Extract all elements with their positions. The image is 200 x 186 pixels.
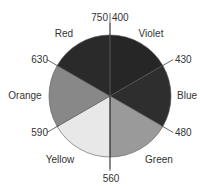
slice-label-green: Green <box>145 154 173 165</box>
slice-label-red: Red <box>55 28 73 39</box>
wavelength-label: 480 <box>175 127 192 138</box>
slice-label-violet: Violet <box>139 28 164 39</box>
wavelength-label-750: 750 <box>91 12 108 23</box>
boundary-tick <box>47 126 59 133</box>
wavelength-label: 430 <box>175 54 192 65</box>
color-wheel-diagram: VioletBlueGreenYellowOrangeRed7504004304… <box>0 0 200 186</box>
wavelength-label: 560 <box>103 173 120 184</box>
boundary-tick <box>161 60 173 67</box>
boundary-tick <box>47 60 59 67</box>
slice-label-orange: Orange <box>8 90 42 101</box>
wavelength-label-400: 400 <box>112 12 129 23</box>
slice-label-blue: Blue <box>177 90 197 101</box>
wavelength-label: 630 <box>31 54 48 65</box>
wavelength-label: 590 <box>31 127 48 138</box>
slice-label-yellow: Yellow <box>46 154 75 165</box>
boundary-tick <box>161 126 173 133</box>
